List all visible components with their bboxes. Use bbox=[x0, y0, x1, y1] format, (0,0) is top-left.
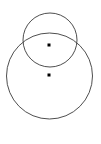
two-circles-diagram bbox=[0, 0, 101, 144]
figure-canvas bbox=[0, 0, 101, 144]
large-circle-center-point bbox=[48, 74, 51, 77]
small-circle-center-point bbox=[48, 44, 51, 47]
figure-background bbox=[0, 0, 101, 144]
